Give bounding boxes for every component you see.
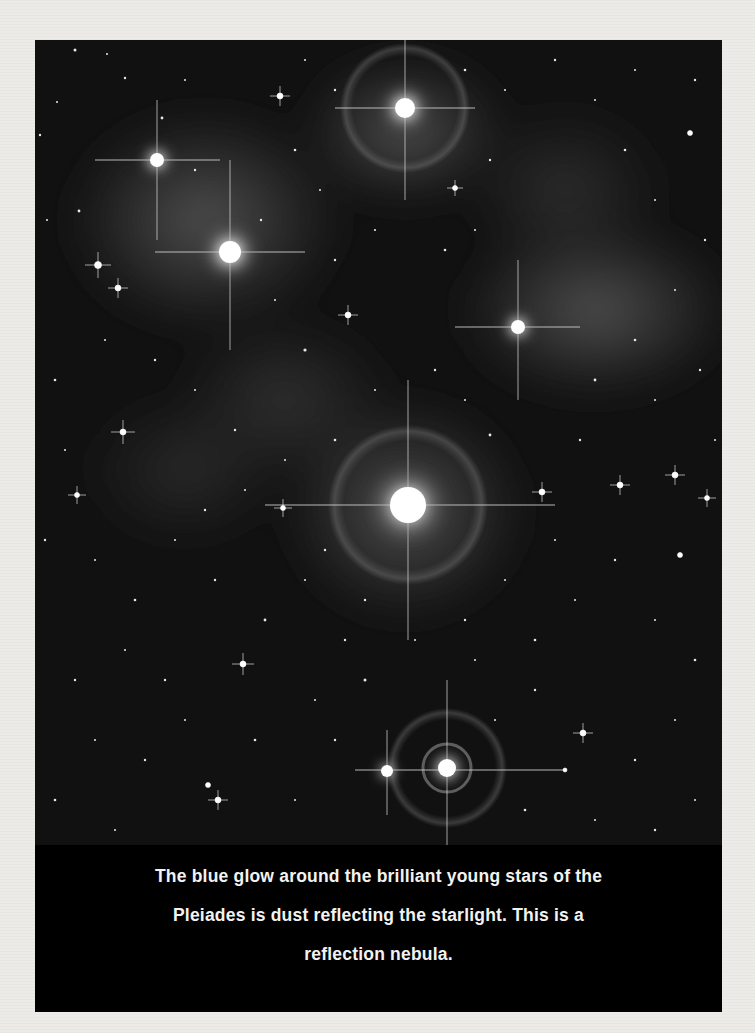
figure: The blue glow around the brilliant young… (35, 40, 722, 1012)
figure-caption: The blue glow around the brilliant young… (35, 845, 722, 1012)
pleiades-photo (35, 40, 722, 845)
caption-line-1: The blue glow around the brilliant young… (35, 857, 722, 896)
caption-line-3: reflection nebula. (35, 935, 722, 974)
star-field-image (35, 40, 722, 845)
caption-line-2: Pleiades is dust reflecting the starligh… (35, 896, 722, 935)
